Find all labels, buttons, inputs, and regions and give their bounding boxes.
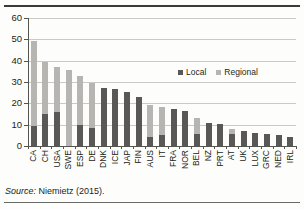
x-axis-tick-mark: [249, 146, 250, 149]
bar-segment-local: [147, 137, 153, 146]
bar-group: [194, 18, 200, 146]
bar-group: [89, 18, 95, 146]
bar-segment-regional: [31, 41, 37, 126]
x-axis-tick-label: AT: [227, 150, 236, 160]
bar-segment-local: [217, 124, 223, 146]
x-axis-tick-label: FRA: [169, 150, 178, 167]
x-axis-tick-mark: [296, 146, 297, 149]
x-axis-tick-mark: [168, 146, 169, 149]
bar-group: [112, 18, 118, 146]
bar-segment-regional: [89, 83, 95, 128]
x-axis-tick-mark: [203, 146, 204, 149]
x-axis-tick-mark: [156, 146, 157, 149]
bar-segment-local: [136, 97, 142, 146]
y-axis-tick-mark: [24, 125, 28, 126]
x-axis-tick-label: NED: [274, 150, 283, 168]
bar-segment-local: [124, 92, 130, 146]
source-prefix: Source:: [5, 186, 36, 196]
x-axis-tick-label: ESP: [76, 150, 85, 167]
bar-group: [217, 18, 223, 146]
y-axis-tick-label: 10: [0, 120, 22, 130]
bar-segment-local: [182, 111, 188, 146]
bar-segment-local: [241, 131, 247, 146]
bar-segment-regional: [42, 62, 48, 114]
x-axis-tick-mark: [28, 146, 29, 149]
bar-segment-local: [276, 135, 282, 146]
bar-segment-local: [77, 125, 83, 146]
bar-segment-local: [42, 114, 48, 146]
y-axis-tick-label: 50: [0, 34, 22, 44]
chart-legend: Local Regional: [178, 67, 258, 77]
legend-label-local: Local: [186, 67, 206, 77]
legend-label-regional: Regional: [224, 67, 258, 77]
bar-segment-regional: [159, 107, 165, 136]
bar-segment-local: [264, 134, 270, 146]
bar-group: [252, 18, 258, 146]
x-axis-tick-label: CH: [41, 150, 50, 162]
x-axis-tick-label: IT: [158, 150, 167, 158]
x-axis-tick-label: SWE: [64, 150, 73, 169]
plot-area: [28, 18, 296, 146]
x-axis-tick-mark: [86, 146, 87, 149]
bar-segment-local: [206, 123, 212, 146]
bar-group: [264, 18, 270, 146]
x-axis-tick-mark: [63, 146, 64, 149]
bar-group: [182, 18, 188, 146]
x-axis-tick-label: USA: [53, 150, 62, 167]
legend-entry-regional: Regional: [216, 67, 258, 77]
y-axis-tick-mark: [24, 61, 28, 62]
y-axis-tick-mark: [24, 103, 28, 104]
x-axis-tick-label: ICE: [111, 150, 120, 164]
bar-segment-local: [159, 135, 165, 146]
bar-segment-regional: [66, 70, 72, 146]
x-axis-tick-mark: [261, 146, 262, 149]
bar-segment-local: [112, 89, 118, 146]
legend-entry-local: Local: [178, 67, 206, 77]
bar-group: [147, 18, 153, 146]
x-axis-tick-mark: [284, 146, 285, 149]
y-axis-line: [28, 18, 29, 147]
bar-segment-regional: [194, 118, 200, 134]
y-axis-tick-label: 40: [0, 56, 22, 66]
bar-segment-regional: [229, 129, 235, 134]
bar-group: [171, 18, 177, 146]
bar-group: [54, 18, 60, 146]
x-axis-line: [28, 146, 296, 147]
bar-segment-regional: [54, 67, 60, 112]
legend-swatch-local-icon: [178, 70, 183, 75]
x-axis-tick-label: BEL: [192, 150, 201, 166]
bar-group: [159, 18, 165, 146]
bar-segment-local: [89, 128, 95, 146]
x-axis-tick-mark: [51, 146, 52, 149]
bar-segment-regional: [147, 105, 153, 137]
x-axis-tick-mark: [75, 146, 76, 149]
top-divider-rule: [4, 5, 300, 7]
x-axis-tick-label: UK: [239, 150, 248, 162]
y-axis-tick-label: 30: [0, 77, 22, 87]
bar-group: [42, 18, 48, 146]
y-axis-tick-label: 0: [0, 141, 22, 151]
x-axis-tick-mark: [133, 146, 134, 149]
bar-segment-local: [252, 133, 258, 146]
bar-group: [136, 18, 142, 146]
y-axis-tick-mark: [24, 39, 28, 40]
x-axis-tick-mark: [238, 146, 239, 149]
x-axis-tick-mark: [121, 146, 122, 149]
x-axis-tick-mark: [273, 146, 274, 149]
x-axis-tick-mark: [40, 146, 41, 149]
x-axis-tick-label: AUS: [146, 150, 155, 167]
x-axis-tick-label: DNK: [99, 150, 108, 168]
x-axis-tick-mark: [179, 146, 180, 149]
y-axis-tick-mark: [24, 18, 28, 19]
bar-group: [241, 18, 247, 146]
x-axis-tick-label: IRL: [286, 150, 295, 163]
x-axis-tick-mark: [110, 146, 111, 149]
x-axis-tick-label: LUX: [251, 150, 260, 167]
bar-group: [66, 18, 72, 146]
x-axis-tick-mark: [98, 146, 99, 149]
bar-group: [77, 18, 83, 146]
bar-segment-local: [31, 126, 37, 146]
source-caption: Source: Niemietz (2015).: [5, 186, 105, 196]
legend-swatch-regional-icon: [216, 70, 221, 75]
figure-container: Local Regional Source: Niemietz (2015). …: [0, 0, 304, 209]
